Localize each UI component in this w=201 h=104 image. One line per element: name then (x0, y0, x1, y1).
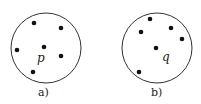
point-label-p: p (37, 51, 45, 65)
point-dot (137, 70, 142, 75)
point-dot (169, 26, 174, 31)
caption-a: a) (38, 86, 49, 99)
panel-b: q b) (122, 13, 192, 99)
point-dot (180, 37, 185, 42)
point-dot (31, 70, 36, 75)
panel-a: p a) (11, 13, 81, 99)
point-dot (154, 46, 159, 51)
point-label-q: q (162, 50, 170, 64)
point-dot (42, 45, 47, 50)
points-a (15, 21, 64, 75)
point-dot (32, 21, 37, 26)
point-dot (148, 17, 153, 22)
diagram-canvas: p a) q b) (0, 0, 201, 104)
point-dot (139, 30, 144, 35)
point-dot (59, 54, 64, 59)
point-dot (15, 48, 20, 53)
points-b (137, 17, 185, 75)
caption-b: b) (151, 86, 162, 99)
point-dot (59, 26, 64, 31)
